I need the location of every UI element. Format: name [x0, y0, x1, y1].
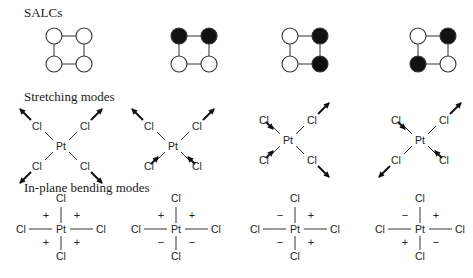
salc-square-3: [282, 28, 328, 72]
empty-orbital: [46, 28, 62, 44]
filled-orbital: [312, 28, 328, 44]
salc-square-2: [171, 28, 217, 72]
stretching-row: PtClClClClPtClClClClPtClClClClPtClClClCl: [20, 103, 461, 183]
empty-orbital: [440, 56, 456, 72]
salc-square-4: [410, 28, 456, 72]
cl-atom: Cl: [56, 192, 66, 204]
filled-orbital: [171, 28, 187, 44]
pt-atom: Pt: [290, 223, 300, 235]
cl-atom: Cl: [80, 120, 90, 132]
cl-atom: Cl: [375, 223, 385, 235]
cl-atom: Cl: [307, 114, 317, 126]
plus-sign: +: [402, 236, 408, 248]
cl-atom: Cl: [455, 223, 465, 235]
cl-atom: Cl: [391, 154, 401, 166]
cl-atom: Cl: [330, 223, 340, 235]
bending-modes-title: In-plane bending modes: [24, 180, 150, 195]
stretching-mode-3: PtClClClCl: [259, 103, 329, 177]
empty-orbital: [410, 28, 426, 44]
empty-orbital: [282, 28, 298, 44]
minus-sign: −: [189, 236, 195, 248]
cl-atom: Cl: [415, 192, 425, 204]
minus-sign: −: [277, 236, 283, 248]
salc-square-1: [46, 28, 92, 72]
plus-sign: +: [43, 209, 49, 221]
minus-sign: −: [402, 209, 408, 221]
cl-atom: Cl: [171, 192, 181, 204]
filled-orbital: [440, 28, 456, 44]
displacement-arrow-icon: [379, 166, 390, 177]
plus-sign: +: [74, 209, 80, 221]
cl-atom: Cl: [32, 120, 42, 132]
pt-atom: Pt: [415, 134, 425, 146]
displacement-arrow-icon: [450, 103, 461, 114]
pt-atom: Pt: [415, 223, 425, 235]
cl-atom: Cl: [192, 120, 202, 132]
stretching-mode-2: PtClClClCl: [132, 109, 214, 172]
empty-orbital: [282, 56, 298, 72]
bending-mode-1: PtClClClCl++++: [16, 192, 106, 262]
salcs-title: SALCs: [24, 5, 62, 20]
salc-row: [46, 28, 456, 72]
pt-atom: Pt: [56, 140, 66, 152]
cl-atom: Cl: [211, 223, 221, 235]
filled-orbital: [201, 28, 217, 44]
pt-atom: Pt: [171, 223, 181, 235]
stretching-mode-4: PtClClClCl: [379, 103, 461, 177]
empty-orbital: [76, 56, 92, 72]
displacement-arrow-icon: [203, 109, 214, 120]
plus-sign: +: [43, 236, 49, 248]
minus-sign: −: [277, 209, 283, 221]
cl-atom: Cl: [80, 160, 90, 172]
cl-atom: Cl: [96, 223, 106, 235]
plus-sign: +: [308, 236, 314, 248]
cl-atom: Cl: [131, 223, 141, 235]
empty-orbital: [171, 56, 187, 72]
empty-orbital: [201, 56, 217, 72]
plus-sign: +: [433, 209, 439, 221]
cl-atom: Cl: [56, 250, 66, 262]
minus-sign: −: [158, 236, 164, 248]
empty-orbital: [46, 56, 62, 72]
pt-atom: Pt: [168, 140, 178, 152]
cl-atom: Cl: [307, 154, 317, 166]
salc-diagram: SALCs Stretching modes In-plane bending …: [0, 0, 473, 278]
displacement-arrow-icon: [318, 103, 329, 114]
cl-atom: Cl: [32, 160, 42, 172]
bending-mode-3: PtClClClCl−+−+: [250, 192, 340, 262]
cl-atom: Cl: [144, 120, 154, 132]
bending-mode-2: PtClClClCl++−−: [131, 192, 221, 262]
bending-row: PtClClClCl++++PtClClClCl++−−PtClClClCl−+…: [16, 192, 465, 262]
cl-atom: Cl: [290, 192, 300, 204]
cl-atom: Cl: [16, 223, 26, 235]
stretching-modes-title: Stretching modes: [24, 89, 115, 104]
empty-orbital: [76, 28, 92, 44]
cl-atom: Cl: [171, 250, 181, 262]
filled-orbital: [410, 56, 426, 72]
displacement-arrow-icon: [91, 109, 102, 120]
filled-orbital: [312, 56, 328, 72]
cl-atom: Cl: [439, 114, 449, 126]
plus-sign: +: [189, 209, 195, 221]
pt-atom: Pt: [56, 223, 66, 235]
stretching-mode-1: PtClClClCl: [20, 109, 102, 183]
bending-mode-4: PtClClClCl−++−: [375, 192, 465, 262]
plus-sign: +: [74, 236, 80, 248]
plus-sign: +: [158, 209, 164, 221]
cl-atom: Cl: [250, 223, 260, 235]
plus-sign: +: [308, 209, 314, 221]
displacement-arrow-icon: [20, 109, 31, 120]
minus-sign: −: [433, 236, 439, 248]
displacement-arrow-icon: [318, 166, 329, 177]
displacement-arrow-icon: [132, 109, 143, 120]
cl-atom: Cl: [415, 250, 425, 262]
cl-atom: Cl: [290, 250, 300, 262]
pt-atom: Pt: [283, 134, 293, 146]
